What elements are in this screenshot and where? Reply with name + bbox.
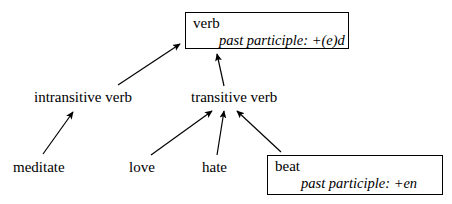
node-love[interactable]: love — [129, 159, 155, 176]
edge-hate-to-transitive-verb — [217, 111, 224, 155]
verb-hierarchy-diagram: verb past participle: +(e)d intransitive… — [0, 0, 452, 204]
node-beat-feature: past participle: +en — [275, 175, 436, 192]
edge-intransitive-verb-to-verb — [118, 44, 180, 85]
edge-transitive-verb-to-verb — [217, 54, 224, 86]
node-intransitive-verb[interactable]: intransitive verb — [34, 89, 132, 106]
node-verb-feature: past participle: +(e)d — [193, 32, 342, 49]
node-verb[interactable]: verb past participle: +(e)d — [185, 12, 349, 49]
node-transitive-verb[interactable]: transitive verb — [191, 89, 277, 106]
node-beat-head: beat — [275, 158, 436, 175]
edge-meditate-to-intransitive-verb — [43, 112, 73, 154]
node-hate[interactable]: hate — [202, 159, 227, 176]
node-meditate[interactable]: meditate — [13, 159, 65, 176]
node-verb-head: verb — [193, 15, 342, 32]
edge-beat-to-transitive-verb — [237, 111, 281, 152]
edge-love-to-transitive-verb — [151, 111, 212, 155]
node-beat[interactable]: beat past participle: +en — [267, 155, 443, 195]
